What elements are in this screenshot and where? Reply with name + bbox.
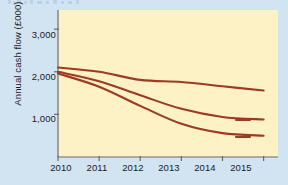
chart-figure: Annual cash flow (£000) 3,000 2,000 1,00…: [0, 0, 288, 185]
chart-plot: [0, 0, 288, 185]
